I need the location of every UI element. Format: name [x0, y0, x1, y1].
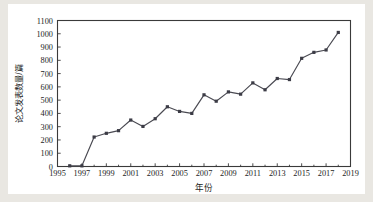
data-point-marker: [141, 125, 144, 128]
x-tick-labels: 1995199719992001200320052007200920112013…: [49, 169, 359, 178]
y-tick-label: 1100: [37, 17, 53, 26]
series-line-papers: [70, 32, 339, 165]
y-tick-label: 300: [41, 123, 53, 132]
data-point-marker: [251, 81, 254, 84]
data-point-marker: [117, 129, 120, 132]
y-tick-label: 600: [41, 83, 53, 92]
x-tick-label: 1999: [98, 169, 115, 178]
chart-svg: 010020030040050060070080090010001100 199…: [0, 0, 373, 202]
x-tick-label: 2009: [220, 169, 237, 178]
data-point-marker: [300, 57, 303, 60]
x-tick-label: 1997: [74, 169, 91, 178]
y-tick-labels: 010020030040050060070080090010001100: [36, 17, 53, 172]
y-tick-label: 500: [41, 96, 53, 105]
data-point-marker: [166, 105, 169, 108]
x-tick-label: 2001: [122, 169, 139, 178]
x-tick-label: 2015: [293, 169, 310, 178]
x-tick-label: 2017: [318, 169, 335, 178]
y-tick-label: 1000: [36, 30, 53, 39]
y-tick-label: 800: [41, 56, 53, 65]
data-point-marker: [190, 112, 193, 115]
data-point-marker: [276, 77, 279, 80]
data-point-marker: [239, 93, 242, 96]
data-point-marker: [263, 88, 266, 91]
y-tick-label: 700: [41, 70, 53, 79]
y-tick-label: 100: [41, 149, 53, 158]
x-tick-label: 2005: [171, 169, 188, 178]
x-tick-label: 2019: [342, 169, 359, 178]
data-point-marker: [215, 100, 218, 103]
y-tick-label: 400: [41, 109, 53, 118]
y-tick-label: 200: [41, 136, 53, 145]
series-markers: [68, 31, 340, 168]
x-axis-title: 年份: [195, 182, 213, 193]
data-point-marker: [324, 48, 327, 51]
data-point-marker: [227, 90, 230, 93]
data-point-marker: [288, 78, 291, 81]
data-point-marker: [80, 164, 83, 167]
x-tick-label: 2003: [147, 169, 164, 178]
y-tick-label: 900: [41, 43, 53, 52]
data-point-marker: [178, 110, 181, 113]
data-point-marker: [68, 164, 71, 167]
x-tick-label: 2007: [196, 169, 213, 178]
y-axis-title: 论文发表数量/篇: [14, 64, 24, 122]
data-point-marker: [93, 135, 96, 138]
x-tick-label: 2011: [245, 169, 261, 178]
data-point-marker: [337, 31, 340, 34]
line-chart: 010020030040050060070080090010001100 199…: [0, 0, 373, 202]
x-tick-label: 1995: [49, 169, 66, 178]
data-point-marker: [312, 51, 315, 54]
data-point-marker: [105, 132, 108, 135]
data-point-marker: [154, 117, 157, 120]
data-point-marker: [129, 118, 132, 121]
data-point-marker: [202, 93, 205, 96]
chart-page: 010020030040050060070080090010001100 199…: [0, 0, 373, 202]
x-tick-label: 2013: [269, 169, 286, 178]
